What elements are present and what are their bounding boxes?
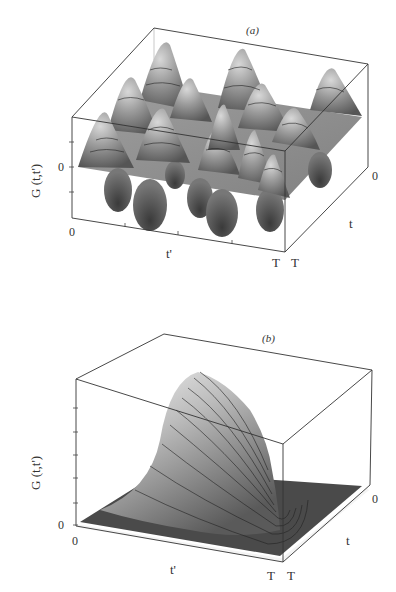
- panel-label-b: (b): [262, 332, 275, 345]
- panel-a: (a) G (t,t') 0 0 t' T T t 0: [28, 24, 378, 270]
- x-start-label-a: 0: [69, 225, 75, 239]
- z-zero-label-a: 0: [58, 160, 64, 174]
- z-ticks-b: [73, 408, 78, 525]
- x-axis-label-b: t': [170, 562, 176, 577]
- z-axis-label-b: G (t,t'): [28, 456, 43, 490]
- y-start-label-a: 0: [372, 169, 378, 183]
- y-axis-label-b: t: [346, 533, 350, 548]
- y-start-label-b: 0: [372, 492, 378, 506]
- figure: (a) G (t,t') 0 0 t' T T t 0: [0, 0, 396, 592]
- y-axis-label-a: t: [349, 216, 353, 231]
- x-end-label-b: T: [267, 568, 275, 583]
- y-end-label-b: T: [287, 568, 295, 583]
- x-end-label-a: T: [272, 255, 280, 270]
- panel-b: (b) G (t,t') 0 0 t' T T t 0: [28, 332, 378, 583]
- panel-label-a: (a): [246, 24, 259, 37]
- z-ticks-a: [69, 142, 74, 192]
- y-end-label-a: T: [291, 255, 299, 270]
- z-zero-label-b: 0: [58, 518, 64, 532]
- x-axis-label-a: t': [166, 246, 172, 261]
- z-axis-label-a: G (t,t'): [28, 164, 43, 198]
- x-start-label-b: 0: [72, 534, 78, 548]
